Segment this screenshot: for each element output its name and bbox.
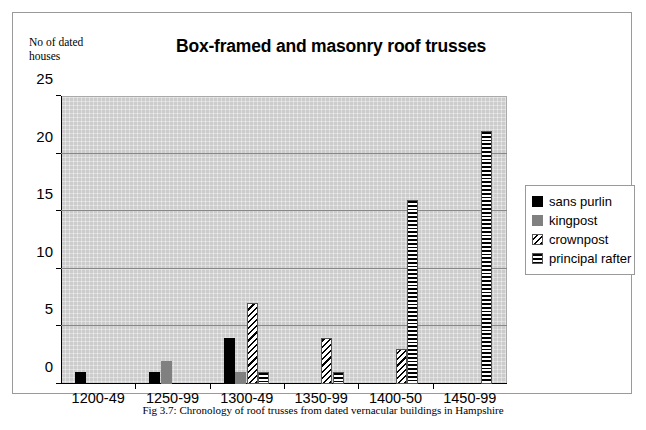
legend-label: kingpost xyxy=(549,213,597,228)
x-tick-mark xyxy=(284,384,285,389)
bar-crownpost-1400-50 xyxy=(396,349,407,384)
y-tick-mark xyxy=(56,210,61,211)
bar-principal-rafter-1350-99 xyxy=(333,372,344,384)
y-tick-mark xyxy=(56,383,61,384)
bar-principal-rafter-1450-99 xyxy=(481,131,492,384)
legend-swatch-icon xyxy=(532,196,543,207)
bar-sans-purlin-1300-49 xyxy=(224,338,235,384)
bar-sans-purlin-1200-49 xyxy=(75,372,86,384)
plot-wrap: 0510152025 1200-491250-991300-491350-991… xyxy=(61,96,507,384)
bar-sans-purlin-1250-99 xyxy=(149,372,160,384)
y-tick-mark xyxy=(56,268,61,269)
bar-kingpost-1250-99 xyxy=(161,361,172,384)
y-tick-label: 10 xyxy=(0,243,53,260)
y-tick-mark xyxy=(56,95,61,96)
gridline xyxy=(61,325,507,326)
chart-legend: sans purlinkingpostcrownpostprincipal ra… xyxy=(525,185,635,275)
figure-caption: Fig 3.7: Chronology of roof trusses from… xyxy=(0,404,646,416)
y-axis-title: No of dated houses xyxy=(29,35,139,63)
gridline xyxy=(61,268,507,269)
legend-label: principal rafter xyxy=(549,251,631,266)
y-tick-label: 0 xyxy=(0,358,53,375)
y-tick-label: 15 xyxy=(0,185,53,202)
y-tick-label: 5 xyxy=(0,300,53,317)
x-tick-mark xyxy=(358,384,359,389)
chart-title: Box-framed and masonry roof trusses xyxy=(131,36,531,57)
legend-item-sans-purlin: sans purlin xyxy=(532,192,629,211)
gridline xyxy=(61,210,507,211)
bar-crownpost-1300-49 xyxy=(247,303,258,384)
legend-swatch-icon xyxy=(532,234,543,245)
legend-item-crownpost: crownpost xyxy=(532,230,629,249)
y-tick-label: 25 xyxy=(0,70,53,87)
figure-frame: No of dated houses Box-framed and masonr… xyxy=(12,12,632,394)
legend-label: crownpost xyxy=(549,232,608,247)
legend-swatch-icon xyxy=(532,253,543,264)
x-tick-mark xyxy=(433,384,434,389)
y-tick-mark xyxy=(56,153,61,154)
x-tick-mark xyxy=(210,384,211,389)
bar-kingpost-1300-49 xyxy=(235,372,246,384)
bar-principal-rafter-1300-49 xyxy=(258,372,269,384)
y-tick-mark xyxy=(56,325,61,326)
bar-crownpost-1350-99 xyxy=(321,338,332,384)
y-axis-line xyxy=(61,96,62,384)
legend-swatch-icon xyxy=(532,215,543,226)
plot-area xyxy=(61,96,507,384)
legend-item-kingpost: kingpost xyxy=(532,211,629,230)
legend-item-principal-rafter: principal rafter xyxy=(532,249,629,268)
gridline xyxy=(61,153,507,154)
x-tick-mark xyxy=(135,384,136,389)
y-tick-label: 20 xyxy=(0,128,53,145)
legend-label: sans purlin xyxy=(549,194,612,209)
bar-principal-rafter-1400-50 xyxy=(407,200,418,384)
